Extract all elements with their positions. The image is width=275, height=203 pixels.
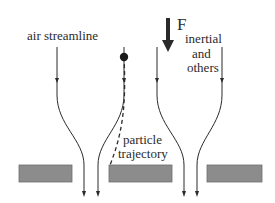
force-subscript-line1: inertial bbox=[185, 32, 222, 45]
force-subscript-line2: and bbox=[192, 47, 211, 60]
obstacle-right bbox=[207, 165, 262, 182]
obstacle-left bbox=[19, 165, 72, 182]
force-subscript-line3: others bbox=[187, 61, 219, 74]
particle bbox=[120, 53, 128, 61]
air-streamline-label: air streamline bbox=[27, 29, 98, 42]
force-arrow-icon bbox=[162, 18, 174, 52]
particle-label-line1: particle bbox=[123, 133, 162, 146]
particle-label-line2: trajectory bbox=[118, 147, 168, 160]
obstacle-middle bbox=[109, 165, 172, 182]
